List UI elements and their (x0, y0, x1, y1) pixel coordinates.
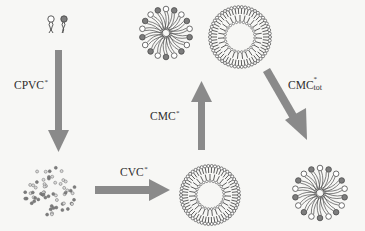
dispersed-dots-icon (24, 166, 76, 216)
vesicle-icon (209, 6, 272, 69)
label-sup: * (314, 76, 318, 83)
label-sup: * (144, 165, 148, 173)
label-sup: * (176, 109, 180, 117)
micelle-icon (140, 6, 193, 60)
label-sup: * (45, 78, 49, 86)
arrow-cmc (191, 81, 212, 150)
diagram-svg (0, 0, 365, 231)
label-main: CPVC (14, 79, 44, 91)
micelle-icon (293, 165, 348, 221)
label-main: CMC (288, 79, 314, 91)
arrow-cpvc (48, 50, 69, 152)
label-main: CMC (150, 110, 176, 122)
label-supsub: *tot (314, 81, 328, 91)
label-cvc: CVC* (120, 166, 148, 179)
label-cmc: CMC* (150, 110, 180, 123)
label-cpvc: CPVC* (14, 79, 48, 92)
vesicle-icon (180, 165, 241, 226)
surfactant-monomer-icon (48, 16, 67, 33)
label-cmc-tot: CMC*tot (288, 80, 328, 92)
diagram-canvas: CPVC* CVC* CMC* CMC*tot (0, 0, 365, 231)
label-main: CVC (120, 166, 144, 178)
arrow-cvc (95, 179, 170, 201)
label-sub: tot (314, 84, 322, 92)
